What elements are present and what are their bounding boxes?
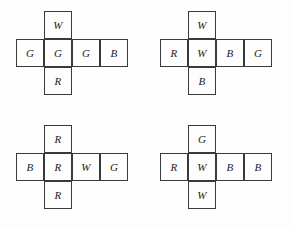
net-cell-far-right: G — [244, 39, 272, 67]
net-cell-bottom: B — [188, 67, 216, 95]
cell-label: G — [198, 134, 206, 145]
net-cell-top: G — [188, 125, 216, 153]
cell-label: G — [254, 48, 262, 59]
net-cell-center: R — [44, 153, 72, 181]
net-cell-left: R — [160, 153, 188, 181]
net-cell-center: W — [188, 39, 216, 67]
cell-label: W — [53, 20, 62, 31]
net-cell-top: R — [44, 125, 72, 153]
cell-label: R — [171, 162, 178, 173]
cell-label: R — [55, 76, 62, 87]
net-cell-bottom: W — [188, 181, 216, 209]
net-cell-right: W — [72, 153, 100, 181]
net-cell-far-right: B — [100, 39, 128, 67]
cell-label: B — [27, 162, 34, 173]
cell-label: G — [54, 48, 62, 59]
net-cell-left: B — [16, 153, 44, 181]
cell-label: R — [55, 134, 62, 145]
net-cell-top: W — [188, 11, 216, 39]
cube-nets-figure: WGGGBRWRWBGBRBRWGRGRWBBW — [0, 0, 294, 226]
net-cell-far-right: G — [100, 153, 128, 181]
net-cell-right: B — [216, 39, 244, 67]
cell-label: B — [111, 48, 118, 59]
cell-label: W — [81, 162, 90, 173]
net-cell-far-right: B — [244, 153, 272, 181]
net-cell-center: W — [188, 153, 216, 181]
cell-label: W — [197, 162, 206, 173]
cell-label: G — [110, 162, 118, 173]
net-cell-bottom: R — [44, 181, 72, 209]
cell-label: G — [26, 48, 34, 59]
cell-label: B — [255, 162, 262, 173]
net-cell-left: R — [160, 39, 188, 67]
net-cell-left: G — [16, 39, 44, 67]
net-cell-center: G — [44, 39, 72, 67]
cell-label: B — [227, 162, 234, 173]
cell-label: R — [55, 162, 62, 173]
net-cell-bottom: R — [44, 67, 72, 95]
net-cell-right: B — [216, 153, 244, 181]
cell-label: R — [171, 48, 178, 59]
cell-label: G — [82, 48, 90, 59]
cell-label: W — [197, 20, 206, 31]
cell-label: R — [55, 190, 62, 201]
cell-label: B — [199, 76, 206, 87]
net-cell-top: W — [44, 11, 72, 39]
cell-label: W — [197, 48, 206, 59]
cell-label: B — [227, 48, 234, 59]
net-cell-right: G — [72, 39, 100, 67]
cell-label: W — [197, 190, 206, 201]
